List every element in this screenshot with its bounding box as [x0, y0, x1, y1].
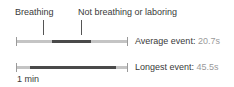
average-event-label: Average event: 20.7s	[135, 36, 220, 46]
legend-not-breathing-label: Not breathing or laboring	[78, 7, 177, 17]
legend-not-breathing-tick	[81, 20, 82, 35]
longest-event-segment	[30, 66, 116, 69]
average-event-segment	[52, 40, 91, 43]
legend-breathing-tick	[43, 20, 44, 35]
bar-start-cap	[16, 37, 17, 46]
longest-event-value: 45.5s	[197, 62, 219, 72]
average-event-value: 20.7s	[198, 36, 220, 46]
scale-label: 1 min	[17, 74, 39, 84]
legend-breathing-label: Breathing	[15, 7, 54, 17]
average-event-bar	[17, 40, 127, 43]
longest-event-bar	[17, 66, 127, 69]
longest-event-label: Longest event: 45.5s	[135, 62, 219, 72]
bar-start-cap	[16, 63, 17, 72]
bar-end-cap	[127, 63, 128, 72]
bar-end-cap	[127, 37, 128, 46]
